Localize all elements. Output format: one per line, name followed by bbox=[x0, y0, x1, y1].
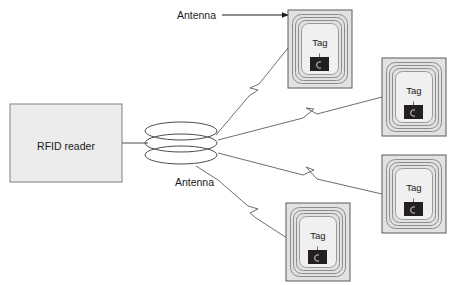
chip-body bbox=[310, 57, 329, 71]
lightning-bolt-icon bbox=[303, 108, 317, 118]
tag-label: Tag bbox=[406, 182, 421, 193]
signal-line-segment bbox=[256, 218, 290, 240]
antenna-coil-loop bbox=[145, 146, 217, 164]
tag-label: Tag bbox=[312, 37, 327, 48]
signal-line-segment bbox=[216, 96, 249, 135]
diagram-canvas: RFID reader bbox=[0, 0, 458, 285]
signal-to-tag-bottom-center bbox=[218, 180, 290, 240]
antenna-label-bottom-group: Antenna bbox=[175, 166, 218, 188]
reader-label: RFID reader bbox=[37, 140, 95, 152]
antenna-label-top: Antenna bbox=[177, 9, 216, 21]
signal-to-tag-right-lower bbox=[218, 153, 382, 194]
rfid-tag-right-upper[interactable]: Tag bbox=[382, 58, 446, 136]
antenna-label-top-group: Antenna bbox=[177, 9, 288, 21]
rfid-tag-top-center[interactable]: Tag bbox=[288, 10, 352, 88]
chip-body bbox=[308, 250, 327, 264]
signal-line-segment bbox=[218, 180, 248, 206]
rfid-reader-block: RFID reader bbox=[10, 104, 122, 182]
lightning-bolt-icon bbox=[248, 206, 258, 218]
chip-body bbox=[404, 202, 423, 216]
antenna-coil-loop bbox=[145, 122, 217, 140]
tag-label: Tag bbox=[406, 85, 421, 96]
signal-line-segment bbox=[259, 48, 288, 84]
rfid-tag-right-lower[interactable]: Tag bbox=[382, 155, 446, 233]
signal-to-tag-top-center bbox=[216, 48, 288, 135]
signal-line-segment bbox=[218, 153, 303, 175]
signal-line-segment bbox=[317, 97, 382, 114]
signal-line-segment bbox=[218, 118, 303, 140]
chip-body bbox=[404, 105, 423, 119]
signal-line-segment bbox=[317, 179, 382, 194]
antenna-coil-loop bbox=[145, 134, 217, 152]
reader-antenna-coil bbox=[145, 122, 217, 164]
antenna-label-bottom: Antenna bbox=[175, 176, 214, 188]
lightning-bolt-icon bbox=[303, 167, 317, 179]
lightning-bolt-icon bbox=[249, 84, 259, 96]
rfid-tag-bottom-center[interactable]: Tag bbox=[286, 203, 350, 281]
rfid-system-diagram: RFID reader bbox=[0, 0, 458, 285]
tag-label: Tag bbox=[310, 230, 325, 241]
